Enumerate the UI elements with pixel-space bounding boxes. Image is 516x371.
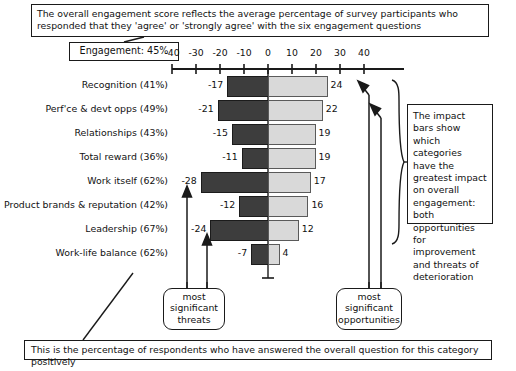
- bar-negative: [239, 196, 270, 217]
- bar-positive: [268, 100, 323, 121]
- bar-positive: [268, 76, 328, 97]
- bar-value-negative: -7: [206, 247, 247, 259]
- bar-positive: [268, 148, 316, 169]
- bar-negative: [242, 148, 270, 169]
- bar-value-negative: -24: [165, 223, 206, 235]
- bar-value-positive: 19: [319, 127, 331, 139]
- bar-value-negative: -15: [187, 127, 228, 139]
- bar-value-positive: 12: [302, 223, 314, 235]
- bar-value-negative: -21: [173, 103, 214, 115]
- bar-value-negative: -11: [197, 151, 238, 163]
- bar-value-positive: 22: [326, 103, 338, 115]
- bar-value-positive: 16: [311, 199, 323, 211]
- bar-value-positive: 17: [314, 175, 326, 187]
- bar-negative: [232, 124, 270, 145]
- bar-positive: [268, 196, 308, 217]
- bar-negative: [210, 220, 270, 241]
- bars-layer: -1724-2122-1519-1119-2817-1216-2412-74: [0, 0, 516, 371]
- bar-negative: [227, 76, 270, 97]
- slide-canvas: The overall engagement score reflects th…: [0, 0, 516, 371]
- bar-negative: [201, 172, 270, 193]
- bar-positive: [268, 220, 299, 241]
- bar-positive: [268, 172, 311, 193]
- bar-value-negative: -12: [194, 199, 235, 211]
- bar-positive: [268, 244, 280, 265]
- bar-value-negative: -28: [156, 175, 197, 187]
- bar-negative: [218, 100, 270, 121]
- bar-value-positive: 24: [331, 79, 343, 91]
- bar-value-positive: 4: [283, 247, 289, 259]
- bar-positive: [268, 124, 316, 145]
- bar-value-positive: 19: [319, 151, 331, 163]
- bar-value-negative: -17: [182, 79, 223, 91]
